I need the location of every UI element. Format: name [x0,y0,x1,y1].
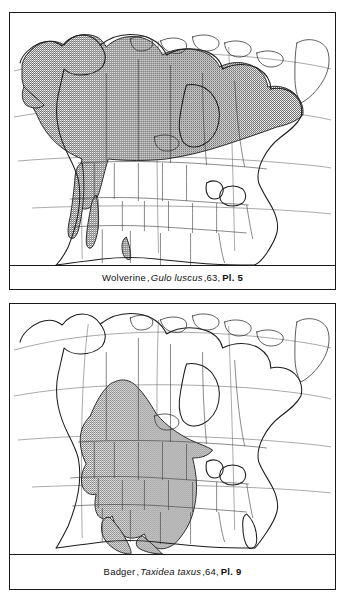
distribution-range-shading [80,380,212,554]
caption-plate-reference: Pl. 9 [219,566,242,577]
range-map-wolverine [10,13,335,265]
figure-page: Wolverine, Gulo luscus, 63, Pl. 5 [0,0,345,605]
caption-page-number: 64 [205,566,216,577]
arctic-islands [130,314,329,430]
caption-common-name: Wolverine [102,272,147,283]
caption-plate-reference: Pl. 5 [220,272,243,283]
caption-scientific-name: Gulo luscus [150,272,204,283]
north-america-map-svg-wolverine [10,13,335,265]
caption-common-name: Badger [104,566,137,577]
caption-scientific-name: Taxidea taxus [139,566,202,577]
caption-wolverine: Wolverine, Gulo luscus, 63, Pl. 5 [10,265,335,289]
map-panel-badger: Badger, Taxidea taxus, 64, Pl. 9 [9,303,336,590]
caption-badger: Badger, Taxidea taxus, 64, Pl. 9 [10,554,335,589]
caption-page-number: 63 [207,272,218,283]
north-america-map-svg-badger [10,304,335,554]
map-panel-wolverine: Wolverine, Gulo luscus, 63, Pl. 5 [9,12,336,290]
range-map-badger [10,304,335,554]
